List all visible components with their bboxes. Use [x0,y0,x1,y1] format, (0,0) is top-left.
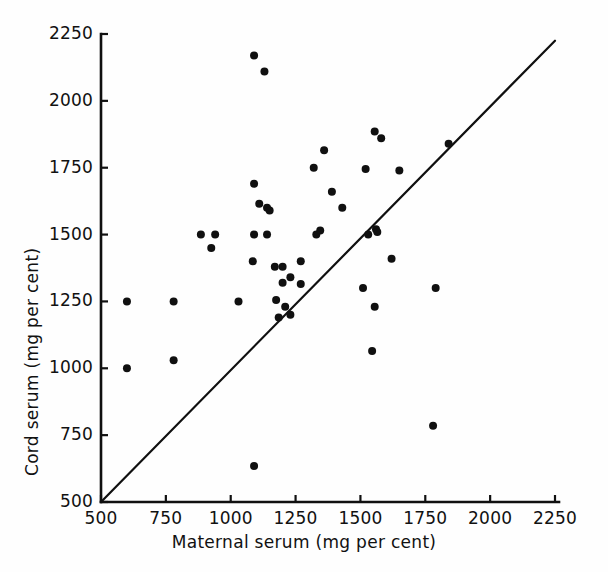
data-point [429,422,437,430]
y-axis-title: Cord serum (mg per cent) [22,248,42,476]
data-point [260,67,268,75]
data-point [170,356,178,364]
data-point [320,146,328,154]
data-point [328,188,336,196]
data-point [271,263,279,271]
data-point [250,462,258,470]
data-point [211,231,219,239]
data-point [297,280,305,288]
data-point [395,166,403,174]
data-point [310,164,318,172]
data-point [197,231,205,239]
data-point [250,180,258,188]
data-points-group [123,51,453,470]
data-point [359,284,367,292]
reference-line-group [101,41,555,502]
data-point [255,200,263,208]
data-point [249,257,257,265]
y-tick-label: 2000 [13,90,93,110]
data-point [362,165,370,173]
data-point [123,297,131,305]
data-point [338,204,346,212]
data-point [279,263,287,271]
data-point [286,273,294,281]
data-point [281,303,289,311]
data-point [368,347,376,355]
data-point [170,297,178,305]
data-point [266,207,274,215]
data-point [371,303,379,311]
data-point [123,364,131,372]
data-point [388,255,396,263]
data-point [234,297,242,305]
reference-line [101,41,555,502]
scatter-plot-figure: 500750100012501500175020002250 500750100… [0,0,608,572]
data-point [272,296,280,304]
data-point [275,313,283,321]
y-tick-label: 1500 [13,224,93,244]
data-point [286,311,294,319]
y-tick-label: 2250 [13,23,93,43]
data-point [207,244,215,252]
data-point [373,228,381,236]
plot-canvas [0,0,608,572]
data-point [250,231,258,239]
data-point [297,257,305,265]
data-point [263,231,271,239]
data-point [377,134,385,142]
y-tick-label: 1750 [13,157,93,177]
data-point [371,128,379,136]
y-tick-label: 500 [13,491,93,511]
x-axis-title: Maternal serum (mg per cent) [0,532,608,552]
data-point [279,279,287,287]
data-point [250,51,258,59]
data-point [445,140,453,148]
data-point [316,227,324,235]
data-point [364,231,372,239]
x-tick-label: 2250 [515,508,595,528]
data-point [432,284,440,292]
